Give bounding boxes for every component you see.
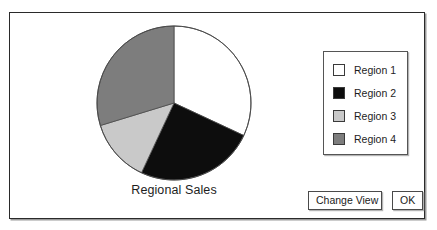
- legend-label-region-3: Region 3: [354, 110, 396, 122]
- legend-swatch-region-1: [333, 64, 345, 76]
- legend-swatch-region-3: [333, 110, 345, 122]
- chart-legend: Region 1 Region 2 Region 3 Region 4: [323, 51, 408, 155]
- legend-label-region-2: Region 2: [354, 87, 396, 99]
- legend-swatch-region-4: [333, 133, 345, 145]
- legend-item-region-2[interactable]: Region 2: [333, 82, 407, 104]
- legend-item-region-4[interactable]: Region 4: [333, 128, 407, 150]
- chart-title: Regional Sales: [86, 183, 262, 197]
- legend-item-region-3[interactable]: Region 3: [333, 105, 407, 127]
- ok-button[interactable]: OK: [392, 191, 423, 210]
- pie-chart[interactable]: [86, 23, 262, 183]
- legend-label-region-4: Region 4: [354, 133, 396, 145]
- chart-area: Regional Sales: [86, 23, 262, 208]
- legend-label-region-1: Region 1: [354, 64, 396, 76]
- legend-item-region-1[interactable]: Region 1: [333, 59, 407, 81]
- change-view-button[interactable]: Change View: [308, 191, 382, 210]
- chart-dialog-window: Regional Sales Region 1 Region 2 Region …: [9, 12, 425, 219]
- dialog-button-bar: Change View OK: [308, 191, 423, 210]
- legend-swatch-region-2: [333, 87, 345, 99]
